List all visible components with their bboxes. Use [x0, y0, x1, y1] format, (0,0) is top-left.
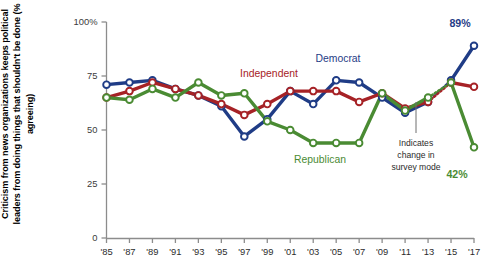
x-tick-label: '87	[123, 246, 135, 257]
data-point-marker	[333, 77, 340, 84]
y-tick-label: 75	[87, 70, 97, 81]
data-point-marker	[356, 79, 363, 86]
data-point-marker	[218, 101, 225, 108]
data-point-marker	[287, 127, 294, 134]
data-point-marker	[333, 88, 340, 95]
y-tick-label: 0	[92, 232, 97, 243]
x-tick-label: '89	[146, 246, 158, 257]
y-tick-label: 50	[87, 124, 97, 135]
x-tick-label: '13	[422, 246, 434, 257]
data-point-marker	[126, 88, 133, 95]
x-tick-label: '91	[169, 246, 181, 257]
series-label-democrat: Democrat	[315, 53, 360, 64]
data-point-marker	[379, 90, 386, 97]
data-point-marker	[172, 86, 179, 93]
line-chart: Criticism from news organizations keeps …	[0, 0, 486, 273]
annotation-line-2: change in	[397, 150, 434, 160]
data-point-marker	[241, 90, 248, 97]
y-tick-label: 100%	[74, 16, 98, 27]
y-axis-ticks: 0255075100%	[74, 16, 107, 243]
series-line-republican-post-mode-change	[451, 82, 474, 147]
y-tick-label: 25	[87, 178, 97, 189]
data-point-marker	[218, 92, 225, 99]
data-point-marker	[103, 94, 110, 101]
data-point-marker	[126, 79, 133, 86]
y-axis-title: Criticism from news organizations keeps …	[0, 0, 55, 233]
data-point-marker	[264, 118, 271, 125]
data-point-marker	[310, 88, 317, 95]
x-tick-label: '01	[284, 246, 296, 257]
x-tick-label: '03	[307, 246, 319, 257]
x-tick-label: '11	[399, 246, 411, 257]
x-tick-label: '09	[376, 246, 388, 257]
data-point-marker	[149, 86, 156, 93]
data-point-marker	[471, 144, 478, 151]
data-point-marker	[172, 94, 179, 101]
x-tick-label: '07	[353, 246, 365, 257]
data-point-marker	[333, 140, 340, 147]
data-point-marker	[103, 81, 110, 88]
annotation-line-3: survey mode	[391, 162, 440, 172]
x-tick-label: '97	[238, 246, 250, 257]
data-point-marker	[241, 133, 248, 140]
x-tick-label: '15	[445, 246, 457, 257]
data-point-marker	[356, 99, 363, 106]
x-tick-label: '17	[468, 246, 480, 257]
x-tick-label: '05	[330, 246, 342, 257]
x-tick-label: '95	[215, 246, 227, 257]
data-point-marker	[287, 88, 294, 95]
data-point-marker	[425, 94, 432, 101]
x-tick-label: '93	[192, 246, 204, 257]
data-point-marker	[241, 112, 248, 119]
data-point-marker	[448, 79, 455, 86]
chart-plot-area: 0255075100% '85'87'89'91'93'95'97'99'01'…	[0, 0, 486, 273]
data-point-marker	[402, 107, 409, 114]
series-label-republican: Republican	[294, 154, 346, 165]
data-point-marker	[471, 42, 478, 49]
end-label-democrat: 89%	[449, 17, 471, 29]
x-tick-label: '99	[261, 246, 273, 257]
data-point-marker	[310, 140, 317, 147]
data-point-marker	[310, 101, 317, 108]
data-point-marker	[126, 96, 133, 103]
series-label-independent: Independent	[240, 68, 298, 79]
data-point-marker	[195, 79, 202, 86]
x-tick-label: '85	[100, 246, 112, 257]
x-axis-ticks: '85'87'89'91'93'95'97'99'01'03'05'07'09'…	[100, 238, 480, 257]
data-point-marker	[264, 101, 271, 108]
data-point-marker	[356, 140, 363, 147]
data-point-marker	[195, 92, 202, 99]
series-line-democrat-post-mode-change	[451, 46, 474, 81]
data-point-marker	[471, 84, 478, 91]
annotation-line-1: Indicates	[399, 138, 433, 148]
end-label-republican: 42%	[446, 168, 468, 180]
data-point-markers	[103, 42, 477, 150]
